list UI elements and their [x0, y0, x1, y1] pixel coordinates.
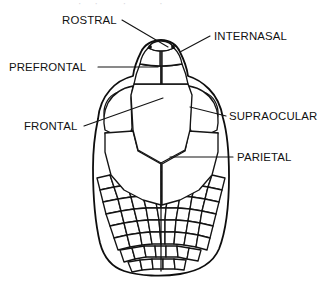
leader-line-internasal	[180, 36, 210, 52]
label-internasal: INTERNASAL	[214, 30, 287, 42]
label-frontal: FRONTAL	[24, 120, 77, 132]
dorsal-scale-r5-c6	[165, 220, 176, 232]
label-prefrontal: PREFRONTAL	[9, 61, 86, 73]
dorsal-scale-r5-c5	[159, 220, 165, 232]
dorsal-scale-r8-c4	[163, 259, 175, 269]
frontal-scale	[131, 84, 192, 163]
dorsal-scale-r8-c2	[140, 259, 153, 270]
label-rostral: ROSTRAL	[62, 14, 117, 26]
label-parietal: PARIETAL	[237, 151, 292, 163]
nostril-right	[171, 45, 175, 49]
nostril-left	[148, 45, 152, 49]
snake-head-diagram: · · · · ROSTRALINTERNASALPREFRONTALFRONT…	[0, 0, 325, 289]
leader-line-rostral	[122, 20, 168, 47]
dorsal-scale-r7-c7	[187, 248, 201, 261]
dorsal-scale-r7-c5	[166, 246, 178, 257]
anatomical-figure: · · · · ROSTRALINTERNASALPREFRONTALFRONT…	[0, 0, 325, 289]
dorsal-scale-r7-c3	[144, 246, 156, 257]
clipped-top-caption: · · · ·	[78, 0, 164, 9]
dorsal-scale-r8-c5	[174, 259, 186, 270]
dorsal-scale-r6-c9	[196, 235, 210, 250]
dorsal-scale-r5-c4	[148, 220, 160, 232]
label-supraocular: SUPRAOCULAR	[229, 110, 317, 122]
dorsal-scale-r6-c4	[150, 232, 161, 244]
